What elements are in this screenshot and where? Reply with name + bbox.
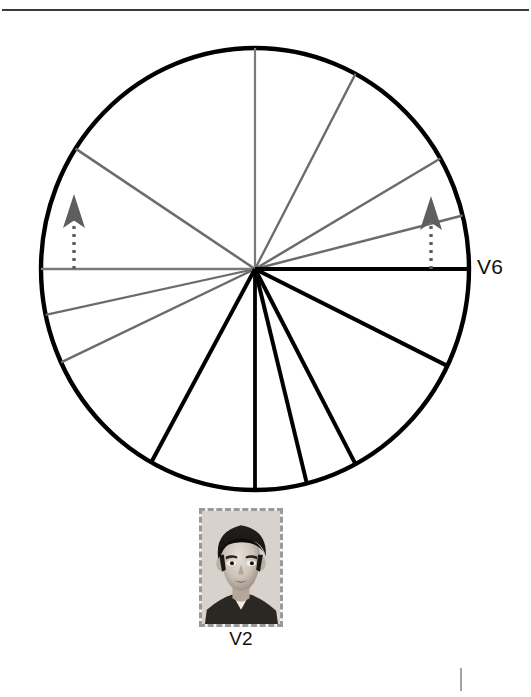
- lead-label-v6: V6: [477, 255, 503, 279]
- photo-caption-v2: V2: [199, 628, 283, 650]
- portrait-photo-image: [202, 511, 280, 624]
- photo-grain: [202, 511, 280, 624]
- figure-root: V6: [0, 0, 531, 697]
- portrait-photo: [199, 508, 283, 627]
